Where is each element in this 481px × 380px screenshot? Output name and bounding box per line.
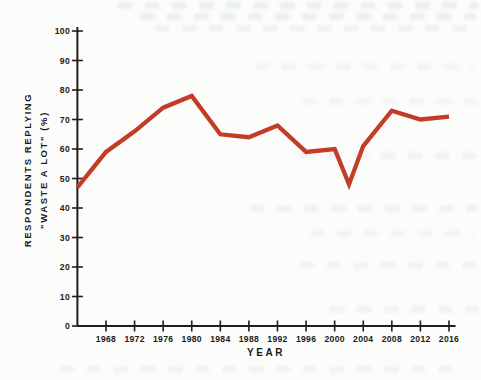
line-chart: 0102030405060708090100196819721976198019…	[0, 0, 481, 380]
x-tick-label: 2008	[382, 334, 402, 344]
y-tick-label: 10	[60, 292, 70, 302]
x-tick-label: 2016	[439, 334, 459, 344]
x-tick-label: 1984	[210, 334, 230, 344]
x-tick-label: 1972	[124, 334, 144, 344]
y-tick-label: 80	[60, 85, 70, 95]
y-tick-label: 50	[60, 174, 70, 184]
y-tick-label: 60	[60, 144, 70, 154]
y-tick-label: 100	[55, 26, 70, 36]
x-tick-label: 1996	[296, 334, 316, 344]
x-tick-label: 1968	[96, 334, 116, 344]
axes	[77, 27, 455, 326]
y-tick-label: 90	[60, 56, 70, 66]
figure: RESPONDENTS REPLYING "WASTE A LOT" (%) Y…	[0, 0, 481, 380]
x-tick-label: 1988	[239, 334, 259, 344]
x-tick-label: 1980	[182, 334, 202, 344]
x-tick-label: 2000	[324, 334, 344, 344]
data-line-percent-replying-waste-a-lot	[77, 96, 449, 187]
y-tick-label: 70	[60, 115, 70, 125]
y-tick-label: 20	[60, 262, 70, 272]
y-tick-label: 40	[60, 203, 70, 213]
x-tick-label: 1992	[267, 334, 287, 344]
y-tick-label: 30	[60, 233, 70, 243]
x-tick-label: 1976	[153, 334, 173, 344]
x-tick-label: 2012	[410, 334, 430, 344]
x-tick-label: 2004	[353, 334, 373, 344]
y-tick-label: 0	[65, 321, 70, 331]
